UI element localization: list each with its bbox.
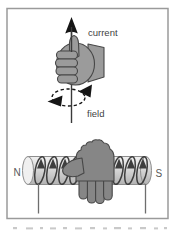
finger-icon [56, 67, 78, 75]
current-label: current [88, 27, 118, 38]
north-pole-label: N [14, 167, 21, 178]
south-pole-label: S [156, 168, 163, 179]
finger-icon [56, 59, 78, 67]
solenoid-left-cap [23, 157, 34, 185]
grip-hand-solenoid [63, 140, 114, 204]
cropped-caption-remnants [13, 227, 167, 229]
grip-hand-wire [56, 36, 105, 86]
right-hand-rule-diagram: current field N S [0, 0, 176, 231]
figure: current field N S [0, 0, 176, 231]
field-label: field [87, 108, 104, 119]
field-arrowhead-left-icon [48, 96, 63, 107]
finger-icon [57, 51, 78, 59]
finger-icon [58, 75, 78, 83]
